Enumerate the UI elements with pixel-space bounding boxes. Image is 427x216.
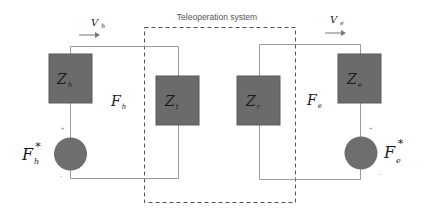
- impedance-box-environment: Ze: [338, 54, 381, 103]
- velocity-label-human: Vh: [91, 17, 105, 29]
- svg-text:-: -: [60, 173, 62, 179]
- force-source-environment: + -: [345, 125, 382, 177]
- impedance-box-slave: Zr: [237, 76, 280, 125]
- svg-text:+: +: [369, 125, 373, 131]
- impedance-box-human: Zh: [49, 54, 92, 103]
- velocity-label-env: Ve: [330, 14, 344, 26]
- source-label-environment: Fe*: [383, 137, 404, 165]
- force-label-env: Fe: [306, 92, 322, 110]
- velocity-arrow-left: [79, 32, 100, 38]
- teleoperation-system-title: Teleoperation system: [177, 12, 257, 22]
- force-label-human: Fh: [110, 93, 126, 111]
- impedance-box-master: Zt: [156, 76, 199, 125]
- source-label-human: Fh*: [21, 140, 41, 166]
- svg-text:-: -: [379, 171, 381, 177]
- teleoperation-circuit-diagram: Teleoperation system Vh Ve Zh Zt: [0, 0, 427, 216]
- svg-text:+: +: [61, 125, 65, 131]
- velocity-arrow-right: [325, 30, 346, 36]
